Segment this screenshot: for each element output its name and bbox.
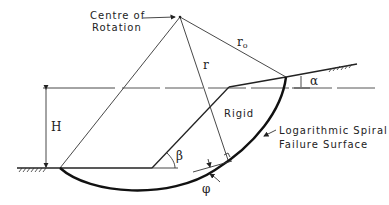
- phi-label: φ: [202, 182, 210, 196]
- rigid-label: Rigid: [224, 108, 254, 119]
- failure-label-line1: Logarithmic Spiral: [279, 125, 388, 136]
- upper-ground: [286, 64, 357, 77]
- line-centre-to-toe: [60, 17, 180, 168]
- radius-r-line: [180, 17, 228, 160]
- phi-arrow-lower: [210, 174, 220, 182]
- slope-top-surface: [229, 77, 286, 87]
- beta-label: β: [176, 149, 183, 163]
- failure-label-line2: Failure Surface: [279, 139, 368, 150]
- failure-pointer-arrow: [264, 130, 276, 136]
- slope-stability-diagram: H φ β α Centre of Rotation ro r: [0, 0, 389, 205]
- height-label: H: [51, 120, 61, 134]
- lower-ground: [17, 168, 60, 172]
- r-label: r: [203, 58, 209, 72]
- centre-of-rotation-point: [179, 16, 182, 19]
- height-dimension: H: [43, 88, 115, 167]
- centre-pointer-arrow: [143, 17, 175, 18]
- log-spiral-failure-surface: [60, 77, 286, 190]
- alpha-label: α: [310, 74, 318, 88]
- beta-arc: [167, 153, 175, 168]
- phi-arrow-upper: [208, 159, 210, 167]
- radius-r0-line: [180, 17, 286, 77]
- centre-label-line1: Centre of: [90, 10, 145, 21]
- r0-label: ro: [237, 35, 248, 50]
- centre-label-line2: Rotation: [92, 22, 142, 33]
